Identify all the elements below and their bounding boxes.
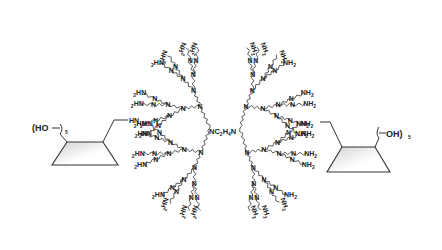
nitrogen-node-label: N <box>269 188 274 195</box>
nitrogen-node-label: N <box>250 71 255 78</box>
terminal-amine-label: 2HN <box>133 89 146 98</box>
core-label: NC2H4N <box>209 127 236 137</box>
wavy-bond <box>199 107 210 129</box>
nitrogen-node-label: N <box>152 95 157 102</box>
nitrogen-node-label: N <box>272 67 277 74</box>
right-cyclodextrin: OH) 5 <box>320 122 411 172</box>
terminal-amine-label: 2HN <box>188 204 201 219</box>
right-oh-bracket <box>375 127 379 147</box>
nitrogen-node-label: N <box>188 57 193 64</box>
nitrogen-node-label: N <box>153 117 158 124</box>
left-cyclodextrin: HN (HO 5 <box>32 117 139 165</box>
left-linker-label: HN <box>129 117 139 124</box>
terminal-amine-label: 2HN <box>132 150 145 159</box>
terminal-amine-label: 2HN <box>131 100 144 109</box>
right-cd-linker <box>320 122 342 147</box>
nitrogen-node-label: N <box>192 180 197 187</box>
nitrogen-node-label: N <box>166 150 171 157</box>
terminal-amine-label: NH2 <box>302 161 315 170</box>
nitrogen-node-label: N <box>189 194 194 201</box>
terminal-amine-label: NH2 <box>277 197 290 212</box>
right-cd-hydroxyl-label: OH) <box>386 129 403 139</box>
nitrogen-node-label: N <box>254 194 259 201</box>
terminal-amine-label: NH2 <box>259 204 272 219</box>
nitrogen-node-label: N <box>182 146 187 153</box>
nitrogen-node-label: N <box>192 164 197 171</box>
nitrogen-node-label: N <box>261 146 266 153</box>
nitrogen-node-label: N <box>243 103 248 110</box>
nitrogen-node-label: N <box>198 149 203 156</box>
nitrogen-node-label: N <box>152 150 157 157</box>
nitrogen-node-label: N <box>275 139 280 146</box>
terminal-amine-label: NH2 <box>283 59 296 68</box>
nitrogen-node-label: N <box>251 180 256 187</box>
nitrogen-node-label: N <box>248 57 253 64</box>
terminal-amine-label: 2HN <box>187 41 200 56</box>
terminal-amine-label: NH2 <box>303 100 316 109</box>
nitrogen-node-label: N <box>274 112 279 119</box>
nitrogen-node-label: N <box>181 176 186 183</box>
terminal-amine-label: NH2 <box>304 150 317 159</box>
nitrogen-node-label: N <box>290 101 295 108</box>
right-cd-ring <box>327 147 390 172</box>
nitrogen-node-label: N <box>261 176 266 183</box>
nitrogen-node-label: N <box>260 75 265 82</box>
core-group: NC2H4N <box>209 127 236 137</box>
nitrogen-node-label: N <box>191 71 196 78</box>
nitrogen-node-label: N <box>276 101 281 108</box>
nitrogen-node-label: N <box>168 139 173 146</box>
terminal-amine-label: 2HN <box>140 120 153 129</box>
nitrogen-node-label: N <box>250 87 255 94</box>
nitrogen-node-label: N <box>289 134 294 141</box>
nitrogen-node-label: N <box>290 156 295 163</box>
dendrimer-diagram: NC2H4N NNNN2HNN2HNNN2HNN2HNNNN2HNN2HNNN2… <box>0 0 442 250</box>
nitrogen-node-label: N <box>173 63 178 70</box>
nitrogen-node-label: N <box>194 194 199 201</box>
nitrogen-node-label: N <box>197 103 202 110</box>
nitrogen-node-label: N <box>157 129 162 136</box>
diagram-svg: NC2H4N NNNN2HNN2HNNN2HNN2HNNNN2HNN2HNNN2… <box>0 0 442 250</box>
left-cd-linker <box>103 120 128 142</box>
nitrogen-node-label: N <box>167 112 172 119</box>
nitrogen-node-label: N <box>193 57 198 64</box>
terminal-amine-label: NH2 <box>248 204 261 219</box>
terminal-amine-label: 2HN <box>134 161 147 170</box>
terminal-amine-label: NH2 <box>258 42 271 57</box>
nitrogen-node-label: N <box>181 105 186 112</box>
nitrogen-node-label: N <box>180 75 185 82</box>
nitrogen-node-label: N <box>253 57 258 64</box>
nitrogen-node-label: N <box>170 184 175 191</box>
nitrogen-node-label: N <box>165 101 170 108</box>
right-cd-subscript: 5 <box>408 134 411 140</box>
terminal-amine-label: NH2 <box>301 89 314 98</box>
left-cd-ring <box>52 142 118 165</box>
nitrogen-node-label: N <box>285 122 290 129</box>
nitrogen-node-label: N <box>277 150 282 157</box>
left-cd-subscript: 5 <box>65 129 68 135</box>
terminal-amine-label: NH2 <box>247 41 260 56</box>
nitrogen-node-label: N <box>251 164 256 171</box>
nitrogen-node-label: N <box>191 87 196 94</box>
left-cd-hydroxyl-label: (HO <box>32 123 49 133</box>
nitrogen-node-label: N <box>260 105 265 112</box>
nitrogen-node-label: N <box>249 194 254 201</box>
nitrogen-node-label: N <box>244 149 249 156</box>
terminal-amine-label: 2HN <box>159 197 172 212</box>
